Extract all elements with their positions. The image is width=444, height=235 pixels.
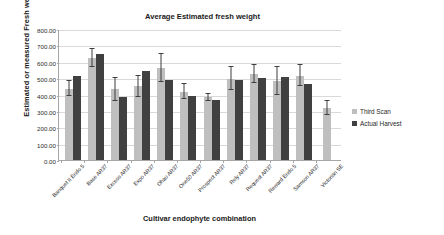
bar-actual-harvest[interactable] [96, 30, 104, 160]
error-bar-cap [251, 82, 256, 83]
bar-rect [73, 76, 81, 161]
bar-actual-harvest[interactable] [258, 30, 266, 160]
bar-rect [304, 84, 312, 160]
y-axis-tick-label: 700.00 [37, 43, 56, 50]
bar-actual-harvest[interactable] [142, 30, 150, 160]
error-bar-cap [66, 95, 71, 96]
error-bar-cap [228, 66, 233, 67]
error-bar [114, 78, 115, 101]
legend-swatch [352, 109, 357, 114]
error-bar-cap [182, 98, 187, 99]
bar-third-scan[interactable] [323, 30, 331, 160]
bar-third-scan[interactable] [111, 30, 119, 160]
x-axis-label: Rely AR37 [228, 163, 250, 186]
error-bar-cap [298, 64, 303, 65]
error-bar-cap [298, 85, 303, 86]
bar-group [177, 30, 200, 160]
error-bar-cap [325, 100, 330, 101]
legend-item[interactable]: Actual Harvest [352, 120, 402, 127]
bar-third-scan[interactable] [250, 30, 258, 160]
bar-group [84, 30, 107, 160]
bar-third-scan[interactable] [157, 30, 165, 160]
y-axis-tick-label: 100.00 [37, 141, 56, 148]
bar-third-scan[interactable] [180, 30, 188, 160]
legend-item[interactable]: Third Scan [352, 108, 402, 115]
bar-rect [258, 78, 266, 160]
x-axis-label: Ohau AR37 [155, 163, 179, 187]
y-axis-tick-label: 400.00 [37, 92, 56, 99]
y-axis-tick-label: 0.00 [44, 158, 56, 165]
bar-actual-harvest[interactable] [281, 30, 289, 160]
bar-group [316, 30, 339, 160]
bar-actual-harvest[interactable] [73, 30, 81, 160]
bar-rect [204, 97, 212, 160]
error-bar-cap [251, 64, 256, 65]
bar-rect [212, 100, 220, 160]
bar-rect [250, 74, 258, 160]
bar-third-scan[interactable] [273, 30, 281, 160]
bar-group [200, 30, 223, 160]
x-axis-title: Cultivar endophyte combination [58, 214, 341, 223]
bar-actual-harvest[interactable] [304, 30, 312, 160]
bar-rect [180, 92, 188, 160]
bar-rect [65, 89, 73, 161]
bar-actual-harvest[interactable] [119, 30, 127, 160]
bar-group [293, 30, 316, 160]
error-bar [68, 81, 69, 96]
bar-rect [165, 80, 173, 160]
error-bar-cap [136, 96, 141, 97]
error-bar-cap [182, 83, 187, 84]
legend-swatch [352, 121, 357, 126]
chart-title: Average Estimated fresh weight [60, 12, 345, 21]
bar-rect [88, 58, 96, 160]
error-bar [91, 49, 92, 67]
bar-third-scan[interactable] [134, 30, 142, 160]
bar-third-scan[interactable] [227, 30, 235, 160]
bar-group [107, 30, 130, 160]
bar-group [246, 30, 269, 160]
x-axis-label: Excess AR37 [105, 163, 132, 190]
bar-rect [227, 79, 235, 160]
error-bar [184, 84, 185, 99]
y-axis-tick-mark [57, 161, 59, 162]
error-bar-cap [89, 48, 94, 49]
x-axis-label: Base AR37 [85, 163, 108, 187]
bar-third-scan[interactable] [65, 30, 73, 160]
bar-rect [235, 80, 243, 160]
bar-third-scan[interactable] [296, 30, 304, 160]
legend-label: Actual Harvest [360, 120, 402, 127]
bar-rect [323, 108, 331, 160]
error-bar [253, 65, 254, 83]
y-axis-tick-label: 500.00 [37, 76, 56, 83]
bar-actual-harvest[interactable] [212, 30, 220, 160]
y-axis-tick-label: 800.00 [37, 27, 56, 34]
x-axis-label: Expo AR37 [133, 163, 156, 187]
bar-group [270, 30, 293, 160]
bar-rect [142, 71, 150, 160]
error-bar-cap [89, 66, 94, 67]
bar-third-scan[interactable] [204, 30, 212, 160]
y-axis-tick-label: 200.00 [37, 125, 56, 132]
x-axis-label: Victorian SE [319, 163, 344, 188]
error-bar-cap [112, 100, 117, 101]
error-bar-cap [275, 94, 280, 95]
x-axis-label: Banquet II Endo 5 [51, 163, 85, 198]
error-bar-cap [136, 75, 141, 76]
bar-group [131, 30, 154, 160]
bar-actual-harvest[interactable] [188, 30, 196, 160]
bar-rect [188, 96, 196, 160]
error-bar [161, 54, 162, 82]
bar-actual-harvest[interactable] [165, 30, 173, 160]
bar-third-scan[interactable] [88, 30, 96, 160]
error-bar-cap [159, 81, 164, 82]
bar-group [61, 30, 84, 160]
bar-rect [281, 77, 289, 160]
bar-actual-harvest[interactable] [235, 30, 243, 160]
error-bar-cap [275, 66, 280, 67]
error-bar [327, 101, 328, 116]
bar-group [154, 30, 177, 160]
plot-area: 800.00700.00600.00500.00400.00300.00200.… [58, 30, 341, 161]
y-axis-title: Estimated or measured Fresh weight (g) [22, 0, 31, 125]
error-bar [277, 67, 278, 95]
error-bar-cap [205, 100, 210, 101]
